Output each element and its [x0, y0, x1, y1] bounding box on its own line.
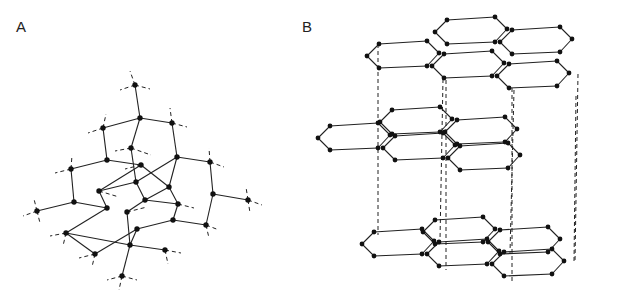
- hex-bond: [500, 30, 512, 42]
- atom-dot: [558, 25, 563, 30]
- hex-bond: [509, 86, 557, 88]
- atom-dot: [567, 71, 572, 76]
- hex-bond: [380, 110, 392, 122]
- hex-bond: [367, 56, 379, 68]
- atom-dot: [438, 105, 443, 110]
- atom-dot: [441, 156, 446, 161]
- hex-bond: [504, 274, 552, 276]
- panel-b-hexagonal-layers: [0, 0, 624, 303]
- atom-dot: [376, 121, 381, 126]
- atom-dot: [458, 144, 463, 149]
- hex-bond: [423, 220, 435, 232]
- hex-bond: [432, 54, 444, 66]
- atom-dot: [481, 215, 486, 220]
- hex-bond: [444, 51, 492, 54]
- hex-bond: [367, 44, 379, 56]
- hex-bond: [495, 17, 507, 29]
- atom-dot: [381, 146, 386, 151]
- atom-dot: [550, 272, 555, 277]
- hex-bond: [505, 117, 517, 129]
- hex-bond: [379, 66, 427, 68]
- atom-dot: [328, 148, 333, 153]
- atom-dot: [372, 254, 377, 259]
- atom-dot: [316, 136, 321, 141]
- hex-bond: [448, 146, 460, 158]
- hex-bond: [508, 143, 520, 155]
- atom-dot: [502, 250, 507, 255]
- atom-dot: [437, 51, 442, 56]
- atom-dot: [442, 52, 447, 57]
- atom-dot: [420, 227, 425, 232]
- atom-dot: [365, 54, 370, 59]
- hex-bond: [508, 155, 520, 168]
- atom-dot: [376, 146, 381, 151]
- atom-dot: [550, 247, 555, 252]
- hex-bond: [447, 42, 495, 44]
- hex-bond: [460, 168, 508, 170]
- atom-dot: [377, 42, 382, 47]
- hex-bond: [557, 61, 569, 73]
- atom-dot: [510, 28, 515, 33]
- atom-dot: [433, 30, 438, 35]
- atom-dot: [446, 156, 451, 161]
- hex-bond: [427, 41, 439, 53]
- hex-bond: [457, 117, 505, 120]
- atom-dot: [495, 74, 500, 79]
- hex-bond: [483, 217, 495, 229]
- atom-dot: [425, 252, 430, 257]
- hex-bond: [509, 61, 557, 64]
- atom-dot: [445, 18, 450, 23]
- hex-bond: [362, 232, 374, 244]
- atom-dot: [433, 218, 438, 223]
- atom-dot: [393, 158, 398, 163]
- hex-bond: [374, 229, 422, 232]
- atom-dot: [493, 40, 498, 45]
- atom-dot: [493, 227, 498, 232]
- atom-dot: [445, 42, 450, 47]
- hex-bond: [445, 132, 457, 144]
- atom-dot: [360, 242, 365, 247]
- hex-bond: [444, 76, 492, 78]
- atom-dot: [498, 40, 503, 45]
- hex-bond: [512, 52, 560, 54]
- atom-dot: [425, 39, 430, 44]
- hex-bond: [362, 244, 374, 256]
- hex-bond: [552, 261, 564, 274]
- atom-dot: [420, 252, 425, 257]
- atom-dot: [388, 133, 393, 138]
- atom-dot: [490, 49, 495, 54]
- atom-dot: [506, 141, 511, 146]
- atom-dot: [558, 237, 563, 242]
- atom-dot: [441, 131, 446, 136]
- atom-dot: [558, 50, 563, 55]
- atom-dot: [430, 64, 435, 69]
- hex-bond: [379, 41, 427, 44]
- hex-bond: [505, 129, 517, 142]
- hex-bond: [443, 133, 455, 145]
- hex-bond: [427, 254, 439, 266]
- hex-bond: [500, 42, 512, 54]
- atom-dot: [493, 15, 498, 20]
- hex-bond: [488, 230, 500, 242]
- atom-dot: [437, 240, 442, 245]
- atom-dot: [455, 118, 460, 123]
- atom-dot: [555, 59, 560, 64]
- hex-bond: [560, 27, 572, 39]
- hex-bond: [374, 254, 422, 256]
- atom-dot: [515, 127, 520, 132]
- atom-dot: [393, 134, 398, 139]
- hex-bond: [497, 64, 509, 76]
- atom-dot: [453, 143, 458, 148]
- hex-bond: [432, 66, 444, 78]
- atom-dot: [506, 166, 511, 171]
- hex-bond: [447, 17, 495, 20]
- atom-dot: [458, 168, 463, 173]
- hex-bond: [383, 136, 395, 148]
- hex-bond: [448, 158, 460, 170]
- hex-bond: [552, 249, 564, 261]
- atom-dot: [490, 74, 495, 79]
- hex-bond: [492, 264, 504, 276]
- atom-dot: [555, 84, 560, 89]
- atom-dot: [442, 76, 447, 81]
- atom-dot: [562, 259, 567, 264]
